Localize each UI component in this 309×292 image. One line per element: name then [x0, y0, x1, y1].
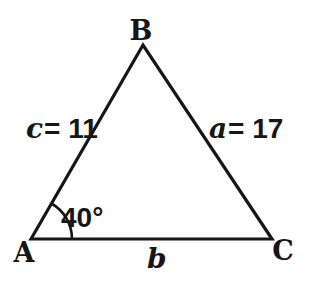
triangle-figure: B A C c = 11 a = 17 b 40° — [0, 0, 309, 292]
side-a-variable: a — [209, 112, 227, 145]
side-a-value: = 17 — [228, 113, 283, 144]
side-c-value: = 11 — [44, 113, 98, 144]
vertex-b-label: B — [130, 15, 153, 46]
triangle-diagram: B A C c = 11 a = 17 b 40° — [0, 0, 309, 292]
angle-a-label: 40° — [61, 202, 103, 233]
vertex-a-label: A — [13, 237, 36, 268]
side-b-variable: b — [147, 242, 167, 275]
vertex-c-label: C — [272, 235, 294, 266]
side-c-variable: c — [26, 112, 43, 145]
